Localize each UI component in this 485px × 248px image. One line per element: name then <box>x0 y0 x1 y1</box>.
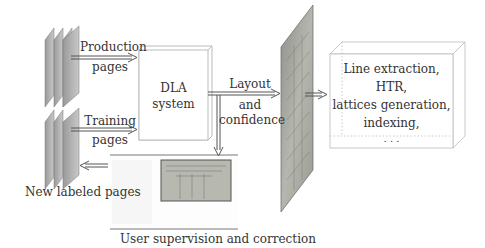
production-label: Production <box>80 40 140 54</box>
processing-indexing: indexing, <box>330 116 453 130</box>
production-pages-stack <box>45 26 79 107</box>
confidence-label: confidence <box>219 113 283 127</box>
processing-lattices: lattices generation, <box>325 98 458 112</box>
processing-htr: HTR, <box>330 80 453 94</box>
layout-output-document <box>281 5 313 212</box>
processing-ellipsis: . . . <box>330 132 453 146</box>
and-label: and <box>222 98 278 112</box>
arrow-supervision-to-new-pages <box>80 161 108 170</box>
dla-label: DLA <box>139 81 208 95</box>
new-labeled-pages-label: New labeled pages <box>25 185 141 199</box>
training-pages-label: pages <box>80 133 140 147</box>
dla-system-label: system <box>139 97 208 111</box>
processing-line-extraction: Line extraction, <box>330 62 453 76</box>
training-pages-stack <box>45 108 79 189</box>
training-label: Training <box>80 114 140 128</box>
supervision-label: User supervision and correction <box>120 232 316 246</box>
layout-label: Layout <box>222 77 278 91</box>
production-pages-label: pages <box>80 60 140 74</box>
